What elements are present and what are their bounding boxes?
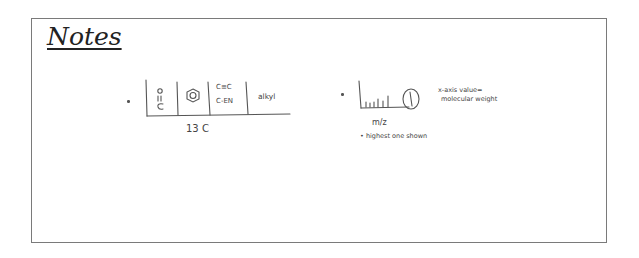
annotation-line-1: x-axis value=	[438, 86, 482, 94]
footnote: • highest one shown	[360, 132, 427, 140]
mass-spectrum-sketch	[0, 0, 639, 258]
annotation-line-2: molecular weight	[441, 95, 497, 103]
axis-label: m/z	[372, 118, 387, 127]
